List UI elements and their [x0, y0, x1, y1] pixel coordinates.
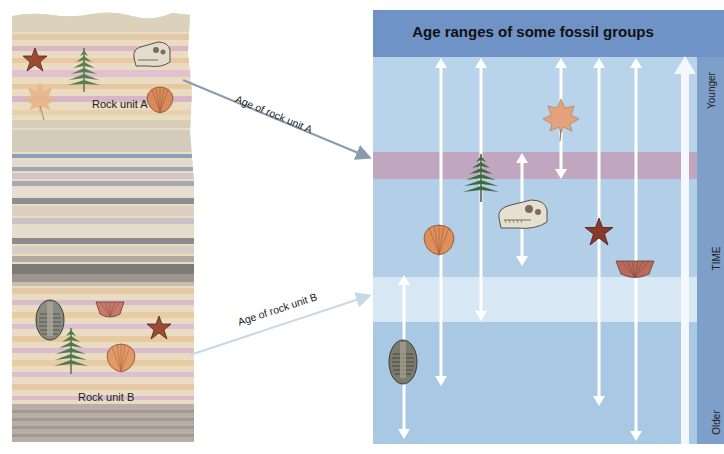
time-axis-arrow: [674, 56, 696, 444]
range-arrow-brachiopod: [630, 58, 642, 441]
range-arrows: [373, 10, 724, 444]
rock-column: Rock unit A Rock unit B: [12, 12, 194, 442]
scallop-shell-icon: [424, 225, 454, 255]
trilobite-icon: [36, 300, 64, 340]
connector-unit-b-label: Age of rock unit B: [236, 290, 318, 327]
dinosaur-skull-icon: [499, 200, 547, 228]
age-ranges-panel: Age ranges of some fossil groups Younger…: [373, 10, 724, 444]
rock-unit-a-label: Rock unit A: [92, 98, 148, 110]
connector-unit-a-label: Age of rock unit A: [234, 92, 315, 135]
rock-unit-b-label: Rock unit B: [78, 391, 134, 403]
fern-icon: [463, 154, 499, 202]
maple-leaf-icon: [543, 99, 579, 141]
range-arrow-scallop: [435, 58, 447, 386]
trilobite-icon: [389, 340, 417, 384]
brachiopod-icon: [616, 261, 654, 278]
